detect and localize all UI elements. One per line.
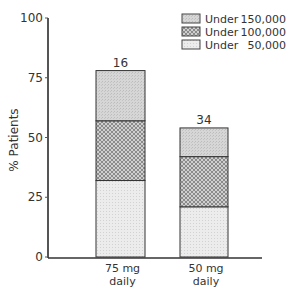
- x-category-label: 50 mg: [188, 262, 223, 275]
- y-tick-label: 0: [35, 250, 43, 264]
- legend-label: Under: [205, 39, 239, 52]
- x-category-label: 75 mg: [105, 262, 140, 275]
- x-category-label: daily: [109, 275, 136, 288]
- bar-segment: [96, 121, 145, 181]
- legend-label: Under: [205, 13, 239, 26]
- x-category-label: daily: [193, 275, 220, 288]
- y-tick-label: 75: [28, 71, 43, 85]
- bar-top-label: 34: [196, 113, 211, 127]
- y-tick-label: 25: [28, 190, 43, 204]
- legend-entry: Under50,000: [182, 39, 286, 52]
- y-axis: 0255075100: [20, 11, 48, 264]
- legend: Under150,000Under100,000Under50,000: [182, 13, 286, 52]
- legend-swatch: [182, 14, 200, 23]
- legend-label: Under: [205, 26, 239, 39]
- bar-segment: [96, 71, 145, 121]
- legend-entry: Under150,000: [182, 13, 286, 26]
- bar-segment: [180, 157, 228, 207]
- y-axis-label: % Patients: [7, 108, 21, 171]
- legend-value: 50,000: [248, 39, 287, 52]
- legend-swatch: [182, 40, 200, 49]
- y-tick-label: 50: [28, 131, 43, 145]
- bar-segment: [180, 128, 228, 157]
- bar-top-label: 16: [113, 56, 128, 70]
- y-tick-label: 100: [20, 11, 43, 25]
- legend-entry: Under100,000: [182, 26, 286, 39]
- legend-swatch: [182, 27, 200, 36]
- stacked-bar-chart: 0255075100 % Patients 1675 mgdaily3450 m…: [0, 0, 294, 294]
- bar-segment: [96, 181, 145, 257]
- bar-group: 1675 mgdaily: [96, 56, 145, 288]
- legend-value: 150,000: [241, 13, 287, 26]
- bar-group: 3450 mgdaily: [180, 113, 228, 288]
- legend-value: 100,000: [241, 26, 287, 39]
- bar-segment: [180, 207, 228, 257]
- bars: 1675 mgdaily3450 mgdaily: [96, 56, 228, 288]
